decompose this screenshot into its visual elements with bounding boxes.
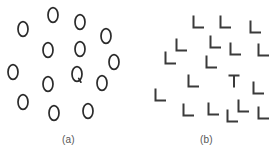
search-distractor-o — [7, 63, 20, 81]
search-distractor-l — [257, 43, 270, 58]
search-distractor-o — [74, 40, 87, 58]
stimulus-field-b — [138, 0, 275, 130]
search-target-q — [71, 65, 84, 83]
search-distractor-o — [42, 75, 55, 93]
search-distractor-l — [252, 81, 265, 96]
search-distractor-o — [82, 102, 95, 120]
search-distractor-l — [257, 106, 270, 121]
search-distractor-o — [74, 13, 87, 31]
panel-b-caption: (b) — [138, 134, 275, 145]
search-distractor-l — [187, 74, 200, 89]
search-distractor-l — [192, 15, 205, 30]
search-distractor-l — [226, 109, 239, 124]
search-distractor-l — [209, 35, 222, 50]
search-distractor-o — [42, 41, 55, 59]
search-distractor-l — [205, 55, 218, 70]
search-distractor-o — [17, 20, 30, 38]
search-distractor-l — [207, 102, 220, 117]
search-distractor-l — [154, 88, 167, 103]
search-distractor-l — [249, 20, 262, 35]
search-distractor-o — [48, 104, 61, 122]
search-distractor-o — [47, 6, 60, 24]
search-target-t — [228, 74, 241, 89]
panel-a-caption: (a) — [0, 134, 137, 145]
search-distractor-l — [219, 15, 232, 30]
search-distractor-o — [96, 74, 109, 92]
search-distractor-l — [164, 51, 177, 66]
search-distractor-l — [229, 42, 242, 57]
panel-a: (a) — [0, 0, 137, 160]
panel-b: (b) — [138, 0, 275, 160]
search-distractor-o — [17, 93, 30, 111]
search-distractor-o — [108, 53, 121, 71]
stimulus-field-a — [0, 0, 137, 130]
visual-search-figure: (a) (b) — [0, 0, 275, 160]
search-distractor-l — [182, 103, 195, 118]
search-distractor-o — [100, 27, 113, 45]
